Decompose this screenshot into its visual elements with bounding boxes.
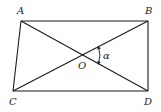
intersection-label-o: O xyxy=(78,60,86,71)
vertex-label-b: B xyxy=(144,5,152,16)
vertex-label-a: A xyxy=(16,5,24,16)
angle-label-alpha: α xyxy=(103,50,110,61)
diagonal-ad xyxy=(21,21,148,91)
edge-ca xyxy=(13,21,21,91)
diagonal-bc xyxy=(13,21,148,91)
vertex-label-c: C xyxy=(9,96,17,107)
geometry-diagram: A B C D O α xyxy=(0,0,161,112)
vertex-label-d: D xyxy=(143,96,152,107)
angle-alpha-arc xyxy=(99,48,101,64)
